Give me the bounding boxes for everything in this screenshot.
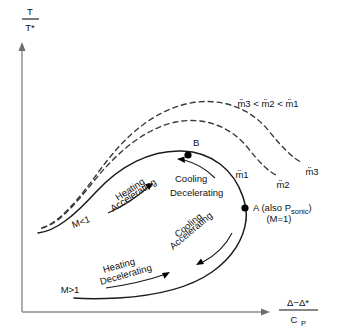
regime-label-subsonic: M<1 — [70, 213, 91, 230]
point-B-marker — [184, 151, 191, 158]
x-axis-denominator: C — [291, 314, 298, 325]
x-axis-numerator: Δ−Δ* — [287, 297, 309, 308]
regime-label-supersonic: M>1 — [61, 284, 80, 295]
legend-mass-flow-order: m̈3 < m̈2 < m̈1 — [237, 98, 298, 109]
process-label-heating-decelerating: Heating Decelerating — [99, 255, 153, 287]
process-label-cooling-decelerating-line2: Decelerating — [170, 187, 223, 198]
x-axis-denominator-subscript: P — [301, 319, 306, 328]
y-axis-label: T T* — [22, 6, 39, 33]
y-axis-denominator: T* — [25, 22, 35, 33]
rayleigh-line-figure: T T* Δ−Δ* C P A (also Psonic) (M=1) B m̈… — [0, 0, 341, 336]
x-axis-label: Δ−Δ* C P — [279, 297, 318, 328]
point-B-group: B — [184, 137, 199, 159]
curve-label-mdot1: m̈1 — [235, 169, 248, 180]
curve-label-mdot3: m̈3 — [305, 166, 318, 177]
process-label-cooling-decelerating: Cooling Decelerating — [170, 173, 223, 198]
point-A-mach-label: (M=1) — [266, 213, 291, 224]
point-A-marker — [241, 204, 248, 211]
y-axis-arrowhead — [18, 42, 25, 51]
process-label-cooling-decelerating-line1: Cooling — [175, 173, 207, 184]
x-axis-arrowhead — [261, 308, 270, 315]
curve-label-mdot2: m̈2 — [276, 179, 289, 190]
process-label-heating-accelerating: Heating Accelerating — [108, 176, 158, 214]
y-axis-numerator: T — [27, 6, 33, 17]
curve-mdot1-lower-branch — [74, 220, 246, 299]
point-A-group: A (also Psonic) (M=1) — [241, 202, 311, 224]
point-B-label: B — [193, 137, 199, 148]
process-label-cooling-accelerating: Cooling Accelerating — [167, 209, 214, 251]
